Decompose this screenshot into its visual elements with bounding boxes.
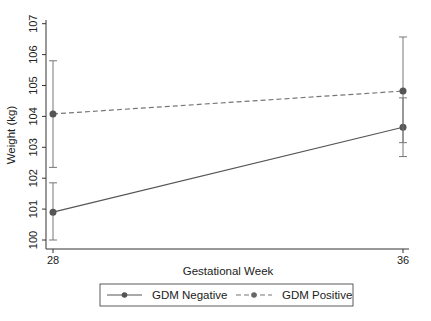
y-tick-label: 100 — [27, 231, 39, 249]
series-line — [53, 127, 403, 212]
y-tick-label: 102 — [27, 169, 39, 187]
y-axis-ticks: 100101102103104105106107 — [27, 15, 46, 250]
series-gdm-positive — [49, 37, 407, 167]
legend-marker-negative — [122, 292, 128, 298]
x-axis-ticks: 2836 — [47, 249, 409, 266]
series-line — [53, 91, 403, 114]
x-axis-title: Gestational Week — [183, 265, 274, 277]
legend-label-positive: GDM Positive — [282, 289, 352, 301]
series-layer — [49, 37, 407, 240]
series-gdm-negative — [49, 98, 407, 240]
legend-label-negative: GDM Negative — [152, 289, 227, 301]
data-point — [50, 110, 57, 117]
legend: GDM Negative GDM Positive — [100, 284, 353, 306]
data-point — [50, 209, 57, 216]
y-tick-label: 101 — [27, 200, 39, 218]
y-tick-label: 106 — [27, 45, 39, 63]
data-point — [400, 88, 407, 95]
y-axis-title: Weight (kg) — [5, 106, 17, 165]
y-tick-label: 104 — [27, 107, 39, 125]
x-tick-label: 28 — [47, 254, 59, 266]
y-tick-label: 103 — [27, 138, 39, 156]
line-chart: 100101102103104105106107 2836 Weight (kg… — [0, 0, 431, 321]
y-tick-label: 105 — [27, 76, 39, 94]
x-tick-label: 36 — [397, 254, 409, 266]
legend-marker-positive — [251, 292, 257, 298]
y-tick-label: 107 — [27, 15, 39, 33]
